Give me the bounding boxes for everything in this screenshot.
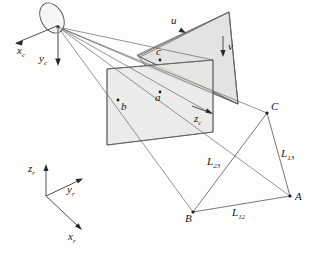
label-axis-u-base: u <box>171 14 177 26</box>
label-distance-L13: L13 <box>280 147 295 162</box>
axis-zr-arrowhead <box>44 164 49 171</box>
label-axis-yc-sub: c <box>44 59 48 67</box>
label-distance-L13-base: L <box>280 147 287 159</box>
label-axis-v-base: v <box>228 40 233 52</box>
label-image-point-b: b <box>121 100 127 112</box>
label-distance-L23: L23 <box>206 155 221 170</box>
label-axis-v: v <box>228 40 233 52</box>
label-axis-zr: zr <box>27 162 35 177</box>
axis-xr-line <box>46 196 80 228</box>
label-world-point-B: B <box>185 212 192 224</box>
label-axis-xc: xc <box>16 44 26 59</box>
triangle-side-L12 <box>193 196 290 212</box>
label-image-point-a: a <box>155 91 161 103</box>
label-axis-xc-sub: c <box>22 51 26 59</box>
label-distance-L13-sub: 13 <box>287 154 295 162</box>
image-point-b-dot <box>117 99 120 102</box>
label-axis-u: u <box>171 14 177 26</box>
label-axis-yr: yr <box>66 183 75 198</box>
label-distance-L12-base: L <box>231 206 238 218</box>
label-axis-xr-sub: r <box>73 237 76 245</box>
label-world-point-A: A <box>294 190 302 202</box>
world-point-A-dot <box>288 194 291 197</box>
axis-u-arrowhead <box>179 28 187 33</box>
image-point-c-dot <box>159 59 162 62</box>
axis-yr-line <box>46 180 80 196</box>
label-distance-L23-base: L <box>206 155 213 167</box>
axis-xc-line <box>16 26 57 43</box>
axis-yr-arrowhead <box>76 179 84 184</box>
world-point-B-dot <box>191 210 194 213</box>
p3p-geometry-diagram: xc yc zc u v c a b A B C L12 L13 L23 <box>0 0 313 253</box>
axis-yc-arrowhead <box>55 59 61 67</box>
label-axis-yr-sub: r <box>72 190 75 198</box>
label-distance-L12-sub: 12 <box>238 213 246 221</box>
world-point-C-dot <box>265 111 268 114</box>
label-distance-L23-sub: 23 <box>213 162 221 170</box>
label-image-point-c: c <box>156 45 161 57</box>
label-axis-yc: yc <box>38 52 48 67</box>
label-world-point-C: C <box>271 100 279 112</box>
label-axis-xr: xr <box>67 230 76 245</box>
label-axis-zr-sub: r <box>32 169 35 177</box>
label-distance-L12: L12 <box>231 206 246 221</box>
diagram-canvas: xc yc zc u v c a b A B C L12 L13 L23 <box>0 0 313 253</box>
